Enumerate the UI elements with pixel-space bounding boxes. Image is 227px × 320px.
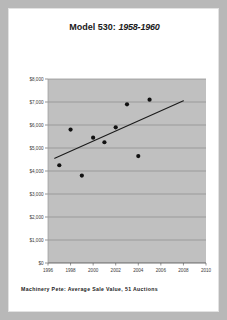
y-tick-label: $2,000 bbox=[29, 215, 43, 220]
y-tick-label: $7,000 bbox=[29, 100, 43, 105]
x-tick-label: 2010 bbox=[201, 268, 212, 273]
data-point bbox=[80, 174, 84, 178]
data-point bbox=[136, 154, 140, 158]
y-axis-tick-labels: $0$1,000$2,000$3,000$4,000$5,000$6,000$7… bbox=[29, 77, 43, 266]
x-axis-tick-labels: 19961998200020022004200620082010 bbox=[43, 268, 212, 273]
y-tick-label: $4,000 bbox=[29, 169, 43, 174]
x-tick-label: 1998 bbox=[65, 268, 76, 273]
data-point bbox=[114, 125, 118, 129]
y-tick-label: $8,000 bbox=[29, 77, 43, 82]
x-tick-label: 2004 bbox=[133, 268, 144, 273]
y-tick-label: $5,000 bbox=[29, 146, 43, 151]
x-tick-label: 2008 bbox=[178, 268, 189, 273]
x-tick-label: 2000 bbox=[88, 268, 99, 273]
data-point bbox=[102, 140, 106, 144]
plot-area: $0$1,000$2,000$3,000$4,000$5,000$6,000$7… bbox=[9, 9, 220, 313]
x-tick-label: 2006 bbox=[156, 268, 167, 273]
chart-card: Model 530: 1958-1960 $0$1,000$2,000$3,00… bbox=[8, 8, 219, 312]
data-point bbox=[91, 136, 95, 140]
scatter-plot-svg: $0$1,000$2,000$3,000$4,000$5,000$6,000$7… bbox=[9, 9, 220, 313]
x-tick-label: 2002 bbox=[111, 268, 122, 273]
data-point bbox=[57, 163, 61, 167]
y-tick-label: $0 bbox=[38, 261, 44, 266]
data-point bbox=[68, 128, 72, 132]
data-point bbox=[125, 102, 129, 106]
footer-source-note: Machinery Pete: Average Sale Value, 51 A… bbox=[21, 286, 211, 292]
y-tick-label: $3,000 bbox=[29, 192, 43, 197]
x-tick-label: 1996 bbox=[43, 268, 54, 273]
y-axis-ticks bbox=[45, 79, 48, 263]
y-tick-label: $1,000 bbox=[29, 238, 43, 243]
data-point bbox=[147, 98, 151, 102]
y-tick-label: $6,000 bbox=[29, 123, 43, 128]
